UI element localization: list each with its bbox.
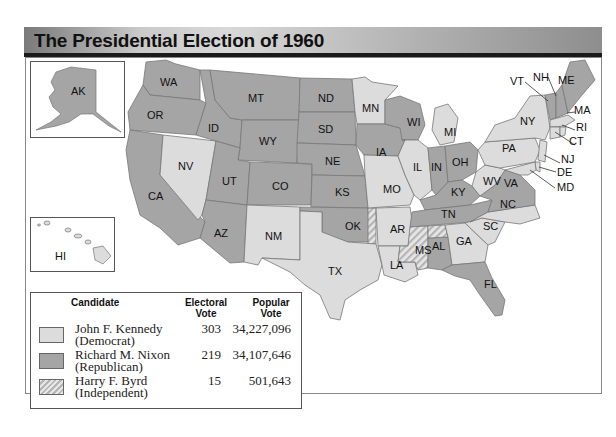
svg-text:WV: WV: [483, 175, 501, 187]
legend-row-nixon: Richard M. Nixon (Republican) 219 34,107…: [31, 349, 301, 375]
ak-label: AK: [71, 85, 86, 97]
svg-text:NH: NH: [533, 71, 549, 83]
svg-text:IN: IN: [431, 161, 442, 173]
svg-text:WI: WI: [407, 116, 420, 128]
popular-vote: 34,107,646: [231, 349, 291, 361]
svg-text:CA: CA: [148, 190, 164, 202]
svg-text:MA: MA: [574, 104, 591, 116]
svg-text:OH: OH: [452, 156, 469, 168]
svg-text:VA: VA: [504, 177, 519, 189]
state-ak: [36, 67, 121, 132]
svg-text:WA: WA: [160, 76, 178, 88]
svg-text:NM: NM: [265, 230, 282, 242]
svg-text:AZ: AZ: [214, 227, 228, 239]
svg-text:ID: ID: [208, 122, 219, 134]
state-ny: [485, 95, 550, 142]
legend-row-byrd: Harry F. Byrd (Independent) 15 501,643: [31, 375, 301, 401]
legend-header-candidate: Candidate: [71, 297, 119, 308]
legend-row-kennedy: John F. Kennedy (Democrat) 303 34,227,09…: [31, 323, 301, 349]
svg-text:NC: NC: [500, 198, 516, 210]
candidate-party: (Republican): [75, 361, 170, 373]
svg-text:TX: TX: [328, 265, 343, 277]
electoral-vote: 219: [181, 349, 221, 361]
svg-text:UT: UT: [222, 175, 237, 187]
state-al-byrd: [428, 225, 448, 238]
svg-text:RI: RI: [576, 121, 587, 133]
svg-text:NV: NV: [178, 160, 194, 172]
svg-text:CT: CT: [569, 135, 584, 147]
svg-text:ME: ME: [558, 74, 575, 86]
popular-vote: 34,227,096: [231, 323, 291, 335]
swatch-independent: [39, 379, 64, 395]
svg-text:DE: DE: [557, 166, 572, 178]
svg-text:GA: GA: [456, 235, 473, 247]
svg-text:IA: IA: [376, 146, 387, 158]
svg-text:AL: AL: [432, 240, 445, 252]
svg-text:MN: MN: [362, 102, 379, 114]
electoral-vote: 15: [181, 375, 221, 387]
candidate-party: (Independent): [75, 387, 148, 399]
svg-text:CO: CO: [272, 180, 289, 192]
legend-table: Candidate Electoral Vote Popular Vote Jo…: [30, 292, 302, 409]
candidate-party: (Democrat): [75, 335, 162, 347]
state-ct: [550, 127, 560, 139]
svg-text:TN: TN: [441, 208, 456, 220]
electoral-vote: 303: [181, 323, 221, 335]
svg-text:MS: MS: [415, 244, 432, 256]
svg-text:MT: MT: [248, 92, 264, 104]
swatch-democrat: [39, 327, 64, 343]
svg-text:NE: NE: [325, 155, 340, 167]
state-ok-byrd-elector: [368, 208, 376, 244]
svg-text:AR: AR: [390, 223, 405, 235]
svg-text:LA: LA: [390, 259, 404, 271]
svg-text:WY: WY: [259, 135, 277, 147]
hawaii-inset: HI: [30, 217, 115, 272]
svg-text:KY: KY: [451, 186, 466, 198]
svg-text:ND: ND: [318, 92, 334, 104]
legend-header-electoral: Electoral Vote: [181, 297, 231, 319]
svg-text:OK: OK: [345, 220, 362, 232]
svg-text:FL: FL: [484, 278, 497, 290]
swatch-republican: [39, 353, 64, 369]
svg-text:NJ: NJ: [561, 153, 574, 165]
svg-text:MI: MI: [444, 126, 456, 138]
svg-text:OR: OR: [147, 109, 164, 121]
svg-text:KS: KS: [335, 186, 350, 198]
svg-text:MO: MO: [383, 183, 401, 195]
state-mi: [432, 104, 458, 145]
svg-text:SD: SD: [318, 123, 333, 135]
hi-label: HI: [55, 250, 66, 262]
popular-vote: 501,643: [231, 375, 291, 387]
svg-text:IL: IL: [413, 161, 422, 173]
alaska-inset: AK: [30, 61, 125, 138]
svg-text:SC: SC: [483, 220, 498, 232]
svg-text:NY: NY: [520, 115, 536, 127]
svg-text:PA: PA: [502, 142, 517, 154]
legend-header-popular: Popular Vote: [246, 297, 296, 319]
svg-text:MD: MD: [557, 181, 574, 193]
svg-text:VT: VT: [510, 75, 524, 87]
state-nj: [538, 140, 547, 162]
